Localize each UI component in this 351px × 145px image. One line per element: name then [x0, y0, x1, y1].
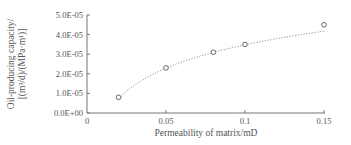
x-tick-label: 0.15	[317, 116, 332, 126]
x-axis-label: Permeability of matrix/mD	[155, 128, 258, 138]
x-tick-label: 0	[85, 116, 89, 126]
x-tick-label: 0.05	[159, 116, 174, 126]
data-point-marker	[211, 50, 216, 55]
data-point-marker	[243, 42, 248, 47]
x-ticks: 00.050.10.15	[85, 110, 332, 126]
y-tick-label: 2.0E-05	[56, 69, 83, 79]
y-tick-label: 1.0E-05	[56, 88, 83, 98]
data-point-marker	[116, 95, 121, 100]
trend-line	[119, 31, 324, 99]
y-tick-label: 3.0E-05	[56, 49, 83, 59]
y-axis-label-line2: [(m³/d)/(MPa·m¹)]	[17, 29, 28, 100]
x-tick-label: 0.1	[240, 116, 251, 126]
chart: 0.0E+001.0E-052.0E-053.0E-054.0E-055.0E-…	[0, 0, 351, 145]
y-axis-label-line1: Oil-producing capacity/	[6, 18, 16, 109]
y-tick-label: 4.0E-05	[56, 30, 83, 40]
y-tick-label: 0.0E+00	[54, 108, 83, 118]
data-points	[116, 23, 326, 100]
data-point-marker	[322, 23, 327, 28]
y-ticks: 0.0E+001.0E-052.0E-053.0E-054.0E-055.0E-…	[54, 10, 90, 118]
data-point-marker	[164, 66, 169, 71]
axes	[87, 15, 325, 113]
y-tick-label: 5.0E-05	[56, 10, 83, 20]
